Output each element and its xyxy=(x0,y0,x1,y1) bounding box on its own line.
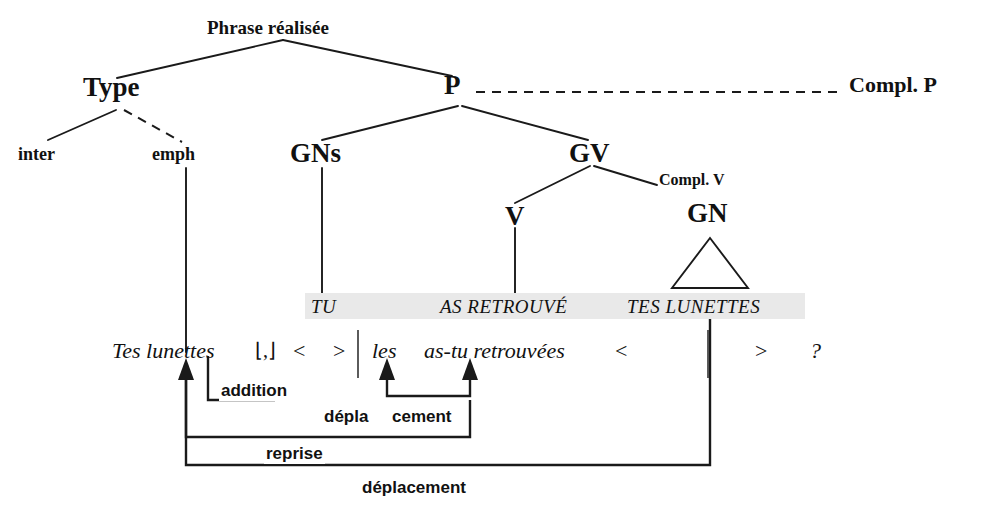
node-gv: GV xyxy=(569,140,610,167)
band-segment-subject: TU xyxy=(311,296,336,318)
node-compl-v: Compl. V xyxy=(659,172,725,188)
edge-root-p xyxy=(283,40,452,76)
token-comma-bracket: ⌊,⌋ xyxy=(255,338,276,362)
token-angle-open-2: < xyxy=(615,338,627,364)
node-gns: GNs xyxy=(290,140,341,167)
label-deplacement-bottom: déplacement xyxy=(360,478,468,498)
node-p: P xyxy=(444,72,461,99)
token-question-mark: ? xyxy=(810,338,821,364)
token-tes-lunettes: Tes lunettes xyxy=(112,338,214,364)
bracket-deplacement xyxy=(387,372,470,396)
node-compl-p: Compl. P xyxy=(849,74,937,96)
tree-connector-lines xyxy=(0,0,994,529)
band-segment-verb: AS RETROUVÉ xyxy=(440,296,567,318)
token-angle-close-1: > xyxy=(333,338,345,364)
node-v: V xyxy=(505,203,525,230)
node-inter: inter xyxy=(18,145,55,163)
gn-triangle xyxy=(672,238,748,288)
syntax-tree-diagram: Phrase réalisée Type P Compl. P inter em… xyxy=(0,0,994,529)
edge-gv-v xyxy=(515,166,590,203)
label-deplacement-part2: cement xyxy=(390,407,454,427)
label-addition: addition xyxy=(219,381,289,401)
token-les: les xyxy=(372,338,396,364)
token-as-tu-retrouvees: as-tu retrouvées xyxy=(424,338,565,364)
edge-type-emph-dashed xyxy=(124,110,182,142)
edge-root-type xyxy=(117,40,283,78)
node-emph: emph xyxy=(152,145,195,163)
label-deplacement-part1: dépla xyxy=(322,407,370,427)
edge-p-gv xyxy=(462,106,588,140)
node-type: Type xyxy=(83,74,140,101)
node-root: Phrase réalisée xyxy=(207,18,329,37)
edge-type-inter xyxy=(48,110,116,140)
token-angle-open-1: < xyxy=(293,338,305,364)
edge-gv-complv xyxy=(594,166,657,185)
edge-p-gns xyxy=(322,106,458,140)
node-gn: GN xyxy=(687,200,728,227)
token-angle-close-2: > xyxy=(755,338,767,364)
label-reprise: reprise xyxy=(264,444,325,464)
band-segment-object: TES LUNETTES xyxy=(627,296,760,318)
